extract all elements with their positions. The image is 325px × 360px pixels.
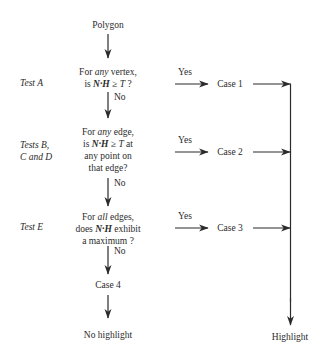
test-a-question-line-2: is N·H ≥ T ? bbox=[58, 78, 158, 90]
test-e-name-label: Test E bbox=[20, 222, 43, 232]
case-1-node: Case 1 bbox=[217, 79, 243, 91]
tests-bcd-question-line-2: is N·H ≥ T at bbox=[58, 138, 158, 150]
case-4-node: Case 4 bbox=[95, 280, 121, 292]
tests-bcd-name-line-2: C and D bbox=[20, 152, 52, 164]
test-a-name: Test A bbox=[20, 78, 43, 90]
case-3-label: Case 3 bbox=[217, 223, 243, 233]
test-a-yes-label: Yes bbox=[178, 67, 192, 79]
start-node-polygon: Polygon bbox=[92, 20, 124, 32]
test-e-question-line-2: does N·H exhibit bbox=[53, 223, 163, 235]
tests-bcd-question-line-1: For any edge, bbox=[58, 126, 158, 138]
case-2-label: Case 2 bbox=[217, 147, 243, 157]
test-e-question-line-3: a maximum ? bbox=[53, 235, 163, 247]
test-a-question: For any vertex, is N·H ≥ T ? bbox=[58, 66, 158, 90]
start-node-label: Polygon bbox=[92, 20, 124, 30]
no-highlight-label: No highlight bbox=[84, 330, 132, 340]
tests-bcd-yes-label: Yes bbox=[178, 135, 192, 147]
test-a-question-line-1: For any vertex, bbox=[58, 66, 158, 78]
tests-bcd-name: Tests B, C and D bbox=[20, 140, 52, 163]
flowchart-connectors bbox=[0, 0, 325, 360]
highlight-label: Highlight bbox=[272, 332, 308, 342]
test-e-question-line-1: For all edges, bbox=[53, 211, 163, 223]
no-highlight-terminal: No highlight bbox=[84, 330, 132, 342]
tests-bcd-no-label: No bbox=[114, 178, 126, 190]
tests-bcd-question: For any edge, is N·H ≥ T at any point on… bbox=[58, 126, 158, 174]
flowchart-canvas: Polygon Test A For any vertex, is N·H ≥ … bbox=[0, 0, 325, 360]
test-a-no-label: No bbox=[114, 92, 126, 104]
case-1-label: Case 1 bbox=[217, 79, 243, 89]
tests-bcd-name-line-1: Tests B, bbox=[20, 140, 52, 152]
test-e-name: Test E bbox=[20, 222, 43, 234]
test-a-name-label: Test A bbox=[20, 78, 43, 88]
tests-bcd-question-line-3: any point on bbox=[58, 150, 158, 162]
test-e-no-label: No bbox=[114, 246, 126, 258]
test-e-question: For all edges, does N·H exhibit a maximu… bbox=[53, 211, 163, 247]
case-2-node: Case 2 bbox=[217, 147, 243, 159]
tests-bcd-question-line-4: that edge? bbox=[58, 162, 158, 174]
highlight-terminal: Highlight bbox=[272, 332, 308, 344]
case-3-node: Case 3 bbox=[217, 223, 243, 235]
case-4-label: Case 4 bbox=[95, 280, 121, 290]
test-e-yes-label: Yes bbox=[178, 211, 192, 223]
